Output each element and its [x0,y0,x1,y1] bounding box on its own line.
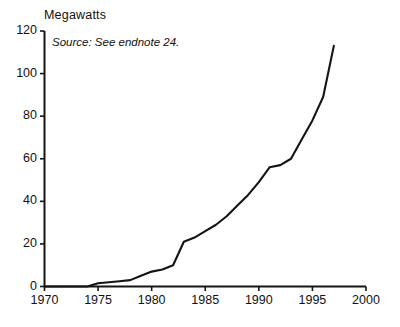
x-axis-tick-label: 1995 [290,293,334,307]
chart-figure: Megawatts Source: See endnote 24. 020406… [0,0,400,327]
y-axis-tick-label: 100 [3,66,37,80]
x-axis-tick-label: 1985 [183,293,227,307]
chart-axes [44,31,366,287]
y-axis-tick-label: 80 [3,108,37,122]
data-series-line [45,46,334,287]
y-axis-tick-label: 60 [3,151,37,165]
y-axis-tick-label: 20 [3,236,37,250]
y-axis-tick-label: 40 [3,193,37,207]
x-axis-tick-label: 1970 [23,293,67,307]
x-axis-tick-label: 2000 [344,293,388,307]
x-axis-tick-label: 1980 [130,293,174,307]
x-axis-tick-label: 1990 [237,293,281,307]
x-axis-tick-label: 1975 [76,293,120,307]
y-axis-tick-label: 120 [3,23,37,37]
line-chart-plot [0,0,400,327]
y-axis-tick-label: 0 [3,279,37,293]
